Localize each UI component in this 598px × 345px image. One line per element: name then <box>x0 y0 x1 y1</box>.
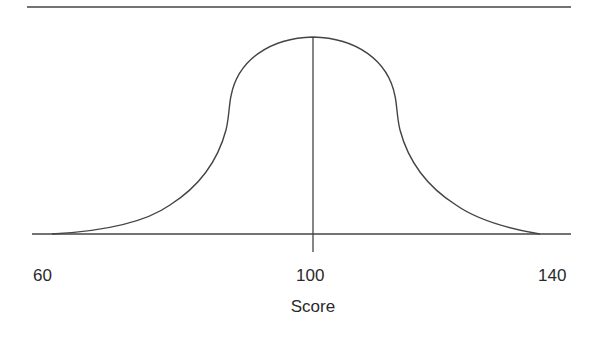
x-tick-100: 100 <box>296 266 324 286</box>
x-tick-60: 60 <box>33 266 52 286</box>
distribution-curve <box>52 37 540 234</box>
x-axis-label: Score <box>0 297 598 317</box>
bell-curve-chart <box>0 0 598 345</box>
x-tick-140: 140 <box>538 266 566 286</box>
